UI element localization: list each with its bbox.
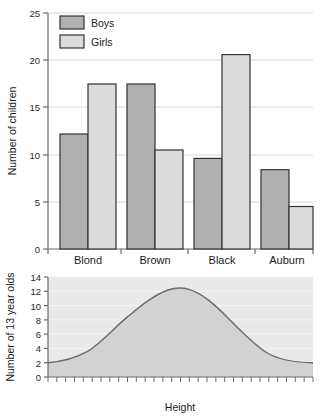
dist-y-tick-label: 12 xyxy=(30,286,41,297)
dist-y-tick-label: 4 xyxy=(36,343,41,354)
dist-y-tick-label: 0 xyxy=(36,372,41,383)
bar-chart-y-ticks xyxy=(43,13,48,249)
distribution-x-axis-title: Height xyxy=(165,401,195,413)
bar-girls-brown[interactable] xyxy=(155,150,183,249)
legend-swatch-girls[interactable] xyxy=(60,35,84,48)
legend-label-girls: Girls xyxy=(91,36,113,48)
bar-girls-auburn[interactable] xyxy=(289,207,313,250)
bar-group-blond xyxy=(60,84,116,249)
bar-group-black xyxy=(194,55,250,249)
bar-boys-auburn[interactable] xyxy=(261,170,289,249)
bar-girls-blond[interactable] xyxy=(88,84,116,249)
distribution-x-ticks xyxy=(48,377,313,382)
bar-boys-blond[interactable] xyxy=(60,134,88,249)
dist-y-tick-label: 2 xyxy=(36,358,41,369)
bar-category-label-brown: Brown xyxy=(139,254,170,265)
bar-boys-black[interactable] xyxy=(194,158,222,249)
dist-y-tick-label: 14 xyxy=(30,272,41,283)
bar-y-tick-label: 15 xyxy=(29,102,40,113)
bar-category-label-auburn: Auburn xyxy=(269,254,304,265)
dist-y-tick-label: 6 xyxy=(36,329,41,340)
bar-y-tick-label: 0 xyxy=(35,244,40,255)
area-chart-height-distribution: 14 12 10 8 6 4 2 0 Number of 13 year old… xyxy=(0,265,323,419)
dist-y-tick-label: 8 xyxy=(36,315,41,326)
bar-category-label-black: Black xyxy=(209,254,236,265)
bar-category-label-blond: Blond xyxy=(74,254,102,265)
bar-y-tick-label: 10 xyxy=(29,150,40,161)
bar-chart-legend: Boys Girls xyxy=(60,16,114,48)
legend-label-boys: Boys xyxy=(91,17,114,29)
bar-y-tick-label: 25 xyxy=(29,8,40,19)
figure-container: 25 20 15 10 5 0 Number of children xyxy=(0,0,323,419)
distribution-y-axis-title: Number of 13 year olds xyxy=(4,272,16,381)
bar-chart-y-axis-title: Number of children xyxy=(6,86,18,175)
bar-chart-hair-colour: 25 20 15 10 5 0 Number of children xyxy=(0,0,323,265)
bar-girls-black[interactable] xyxy=(222,55,250,249)
legend-swatch-boys[interactable] xyxy=(60,16,84,29)
bar-y-tick-label: 5 xyxy=(35,197,40,208)
bar-group-auburn xyxy=(261,170,313,249)
bar-boys-brown[interactable] xyxy=(127,84,155,249)
dist-y-tick-label: 10 xyxy=(30,301,41,312)
bar-y-tick-label: 20 xyxy=(29,55,40,66)
bar-group-brown xyxy=(127,84,183,249)
